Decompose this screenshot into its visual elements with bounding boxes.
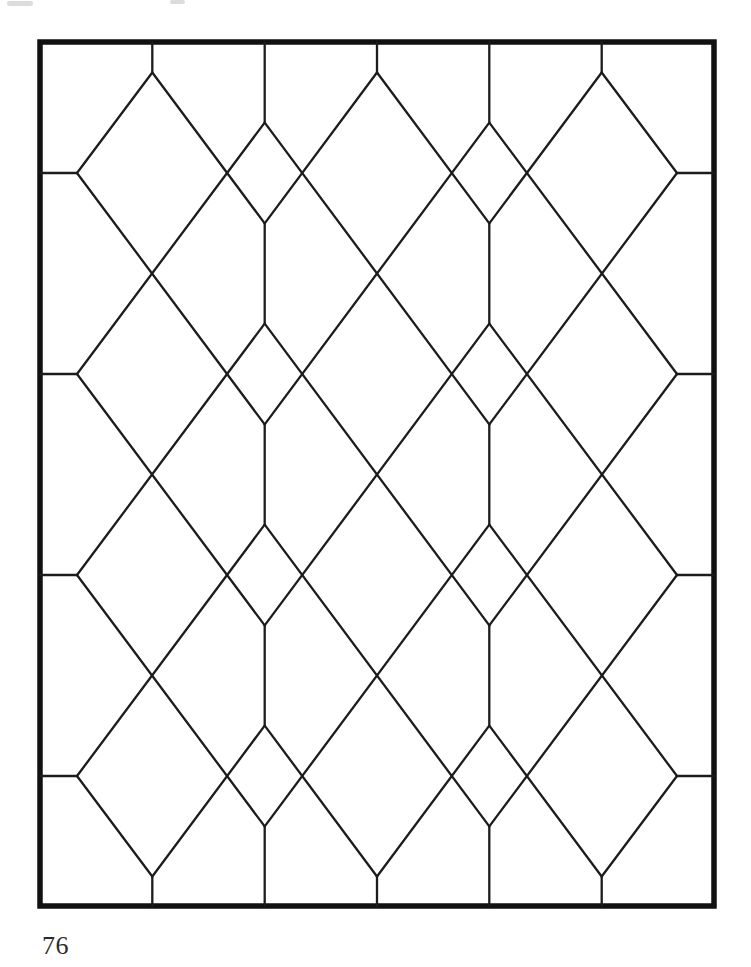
scan-smudge (170, 0, 185, 4)
scan-smudge (7, 1, 33, 6)
pattern-svg (0, 0, 751, 967)
book-page: 76 (0, 0, 751, 967)
page-number: 76 (42, 933, 69, 959)
